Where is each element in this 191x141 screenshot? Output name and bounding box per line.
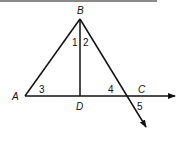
point-label-b: B (77, 5, 84, 16)
point-label-d: D (76, 101, 83, 112)
point-label-a: A (11, 91, 19, 102)
angle-label-3: 3 (39, 84, 45, 95)
angle-label-5: 5 (137, 101, 143, 112)
angle-label-2: 2 (83, 37, 89, 48)
point-label-c: C (138, 84, 146, 95)
segment-ab (25, 19, 80, 96)
angle-label-4: 4 (108, 84, 114, 95)
geometry-diagram: B A D C 1 2 3 4 5 (0, 0, 191, 141)
angle-label-1: 1 (72, 37, 78, 48)
